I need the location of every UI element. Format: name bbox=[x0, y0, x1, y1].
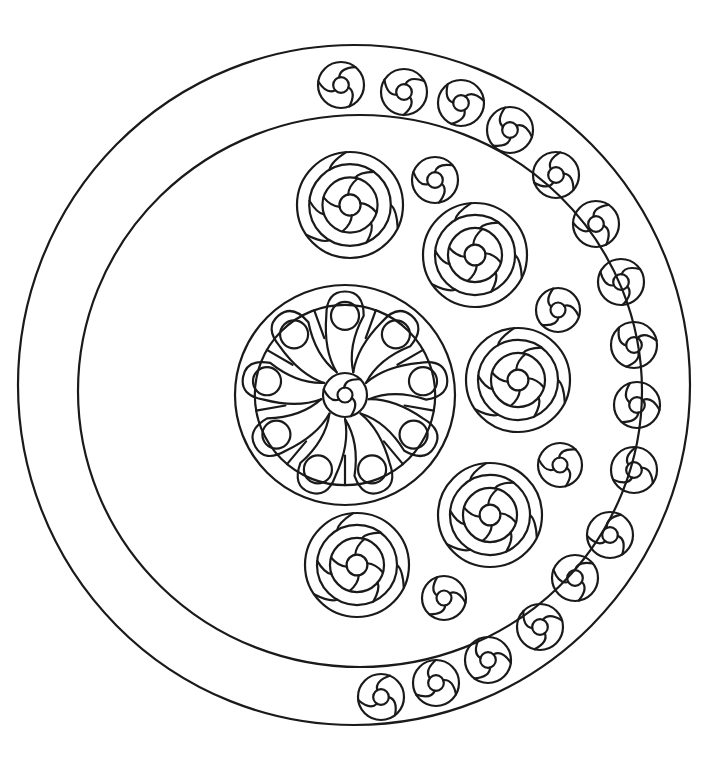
swirl-medallion bbox=[552, 555, 598, 601]
rosette-divider bbox=[480, 223, 499, 229]
rosette-divider bbox=[464, 508, 480, 517]
swirl-spoke bbox=[607, 515, 621, 528]
swirl-medallion bbox=[318, 62, 364, 108]
swirl-spoke bbox=[493, 138, 511, 146]
swirl-medallion bbox=[413, 660, 459, 706]
rosette-divider bbox=[492, 373, 508, 382]
rosette-divider bbox=[449, 248, 465, 257]
flower-divider bbox=[314, 310, 324, 338]
swirl-medallion bbox=[358, 674, 404, 720]
swirl-spoke bbox=[339, 67, 355, 77]
rosette-divider bbox=[488, 489, 497, 505]
swirl-spoke bbox=[566, 468, 570, 486]
rosette bbox=[297, 152, 403, 258]
rosette-ring bbox=[347, 555, 368, 576]
swirl-spoke bbox=[351, 398, 355, 416]
swirl-spoke bbox=[435, 165, 453, 172]
rosette-divider bbox=[391, 205, 398, 228]
rosette-divider bbox=[350, 575, 359, 591]
rosette-divider bbox=[360, 203, 376, 212]
swirl-spoke bbox=[622, 268, 640, 274]
rosette bbox=[423, 203, 527, 307]
swirl-spoke bbox=[575, 563, 593, 570]
swirl-spoke bbox=[641, 468, 652, 483]
petal-dot bbox=[253, 367, 281, 395]
swirl-medallion bbox=[465, 637, 511, 683]
rosette-divider bbox=[483, 525, 492, 541]
rosette-ring bbox=[508, 370, 529, 391]
swirl-medallion bbox=[438, 80, 484, 126]
swirl-outline bbox=[614, 382, 660, 428]
rosette-divider bbox=[324, 197, 340, 206]
swirl-hub bbox=[626, 337, 642, 353]
swirl-spoke bbox=[594, 205, 609, 217]
swirl-spoke bbox=[413, 172, 428, 184]
rosette-divider bbox=[500, 513, 516, 522]
flower-petal bbox=[326, 291, 364, 372]
petal-dot bbox=[331, 302, 359, 330]
swirl-spoke bbox=[543, 616, 562, 620]
rosette-divider bbox=[495, 483, 514, 489]
swirl-outline bbox=[422, 576, 466, 620]
swirl-spoke bbox=[619, 328, 627, 346]
rosette-divider bbox=[355, 539, 364, 555]
flower-petal bbox=[353, 311, 418, 383]
swirl-hub bbox=[602, 527, 618, 543]
swirl-spoke bbox=[604, 226, 609, 245]
band-small-swirls bbox=[318, 62, 660, 720]
swirl-spoke bbox=[613, 478, 632, 483]
swirl-spoke bbox=[443, 680, 456, 694]
swirl-spoke bbox=[384, 80, 396, 95]
swirl-spoke bbox=[622, 413, 639, 422]
rosette-divider bbox=[485, 253, 501, 262]
swirl-hub bbox=[373, 689, 389, 705]
rosette-divider bbox=[528, 378, 544, 387]
rosette-divider bbox=[523, 348, 542, 354]
swirl-outline bbox=[465, 637, 511, 683]
rosette bbox=[305, 513, 409, 617]
rosette-ring bbox=[465, 245, 486, 266]
swirl-hub bbox=[502, 122, 518, 138]
rosette-divider bbox=[558, 380, 565, 403]
center-flower bbox=[235, 285, 455, 505]
swirl-spoke bbox=[451, 110, 464, 124]
swirl-spoke bbox=[344, 379, 360, 387]
swirl-spoke bbox=[416, 691, 435, 697]
swirl-medallion bbox=[538, 443, 582, 487]
rosette-divider bbox=[362, 533, 381, 539]
rosette-divider bbox=[511, 390, 520, 406]
swirl-spoke bbox=[618, 536, 624, 555]
rosette-divider bbox=[515, 255, 522, 278]
rosette-divider bbox=[367, 563, 383, 572]
rosette bbox=[438, 463, 542, 567]
swirl-spoke bbox=[405, 79, 424, 84]
swirl-hub bbox=[551, 303, 566, 318]
petal-dot bbox=[400, 421, 428, 449]
swirl-medallion bbox=[381, 69, 427, 115]
swirl-spoke bbox=[626, 383, 630, 402]
swirl-spoke bbox=[474, 668, 490, 679]
swirl-spoke bbox=[377, 676, 390, 690]
rosette-divider bbox=[530, 515, 537, 538]
flower-divider bbox=[256, 406, 285, 411]
petal-dot bbox=[382, 320, 410, 348]
swirl-medallion bbox=[536, 288, 580, 332]
swirl-medallion bbox=[487, 107, 533, 153]
petal-dot bbox=[304, 455, 332, 483]
petal-dot bbox=[358, 455, 386, 483]
swirl-outline bbox=[318, 62, 364, 108]
swirl-spoke bbox=[348, 87, 352, 106]
swirl-hub bbox=[453, 95, 469, 111]
swirl-medallion bbox=[598, 259, 644, 305]
petal-dot bbox=[262, 421, 290, 449]
swirl-spoke bbox=[600, 272, 614, 286]
swirl-spoke bbox=[626, 352, 638, 367]
mandala-coloring-artwork bbox=[0, 0, 712, 771]
swirl-spoke bbox=[542, 317, 559, 325]
swirl-spoke bbox=[389, 697, 396, 715]
swirl-medallion bbox=[412, 157, 458, 203]
petal-dot bbox=[409, 367, 437, 395]
rosette-ring bbox=[480, 505, 501, 526]
rosette-divider bbox=[468, 265, 477, 281]
swirl-hub bbox=[427, 172, 443, 188]
